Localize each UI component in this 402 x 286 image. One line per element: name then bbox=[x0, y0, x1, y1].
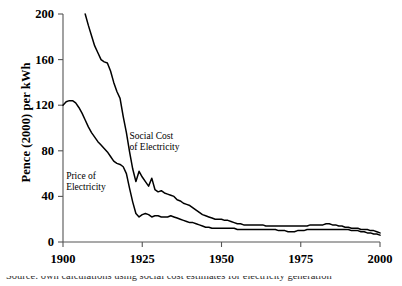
social-cost-label-line2: of Electricity bbox=[130, 142, 180, 153]
figure-caption-strip: Source: own calculations using social co… bbox=[0, 276, 402, 286]
price-label: Price ofElectricity bbox=[66, 171, 106, 193]
axes-group bbox=[58, 14, 380, 247]
figure-caption-text: Source: own calculations using social co… bbox=[6, 276, 332, 281]
series-line-price bbox=[63, 101, 380, 236]
price-label-line1: Price of bbox=[66, 171, 106, 182]
series-group bbox=[63, 14, 380, 235]
price-label-line2: Electricity bbox=[66, 182, 106, 193]
chart-figure: Pence (2000) per kWh 04080120160200 1900… bbox=[0, 0, 402, 286]
social-cost-label: Social Costof Electricity bbox=[130, 131, 180, 153]
plot-area bbox=[0, 0, 402, 286]
series-line-social-cost bbox=[85, 14, 380, 233]
social-cost-label-line1: Social Cost bbox=[130, 131, 180, 142]
